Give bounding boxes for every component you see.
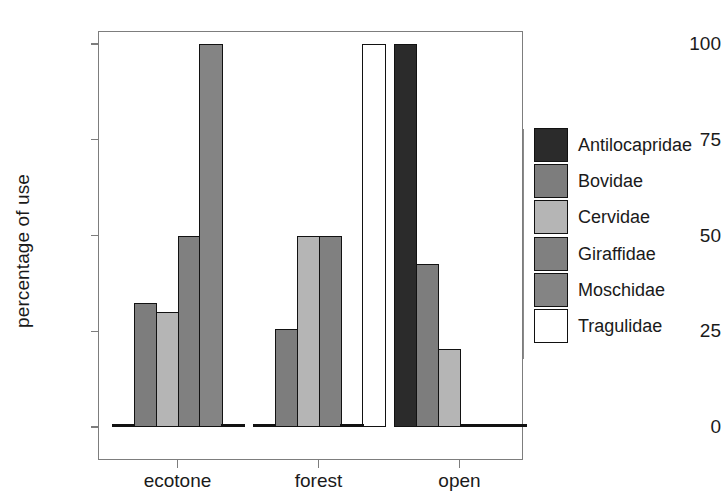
y-tick-mark — [91, 139, 98, 140]
legend-swatch-antilocapridae — [534, 128, 568, 162]
legend-label: Giraffidae — [578, 245, 656, 263]
bar-ecotone-antilocapridae — [112, 424, 135, 427]
y-axis-title: percentage of use — [0, 0, 46, 502]
legend-item-giraffidae[interactable]: Giraffidae — [534, 236, 720, 272]
legend-swatch-moschidae — [534, 273, 568, 307]
legend-swatch-bovidae — [534, 164, 568, 198]
bar-ecotone-bovidae — [134, 303, 157, 427]
bar-ecotone-cervidae — [156, 312, 179, 427]
y-tick-mark — [91, 43, 98, 44]
legend: AntilocapridaeBovidaeCervidaeGiraffidaeM… — [523, 127, 721, 359]
bar-group-open — [394, 44, 525, 427]
bar-forest-cervidae — [297, 236, 320, 428]
x-tick-label-ecotone: ecotone — [144, 470, 212, 492]
y-tick-label: 100 — [637, 33, 721, 55]
y-tick-mark — [91, 331, 98, 332]
bar-forest-antilocapridae — [253, 424, 276, 427]
bar-forest-moschidae — [340, 424, 363, 427]
x-tick-mark — [459, 460, 460, 468]
bar-ecotone-moschidae — [199, 44, 222, 427]
bar-open-tragulidae — [503, 424, 526, 427]
legend-item-moschidae[interactable]: Moschidae — [534, 272, 720, 308]
legend-label: Antilocapridae — [578, 136, 692, 154]
legend-label: Cervidae — [578, 208, 650, 226]
legend-label: Tragulidae — [578, 317, 662, 335]
x-tick-label-open: open — [438, 470, 480, 492]
bar-open-giraffidae — [460, 424, 483, 427]
bar-open-bovidae — [416, 264, 439, 427]
legend-swatch-giraffidae — [534, 237, 568, 271]
bar-open-cervidae — [438, 349, 461, 428]
legend-swatch-tragulidae — [534, 309, 568, 343]
bar-ecotone-tragulidae — [221, 424, 244, 427]
legend-item-antilocapridae[interactable]: Antilocapridae — [534, 127, 720, 163]
bar-forest-giraffidae — [319, 236, 342, 428]
x-tick-mark — [177, 460, 178, 468]
legend-label: Moschidae — [578, 281, 665, 299]
y-tick-mark — [91, 426, 98, 427]
y-tick-mark — [91, 235, 98, 236]
legend-item-cervidae[interactable]: Cervidae — [534, 199, 720, 235]
x-tick-label-forest: forest — [295, 470, 343, 492]
y-tick-label: 0 — [637, 416, 721, 438]
bars-layer — [98, 31, 523, 460]
bar-forest-tragulidae — [362, 44, 385, 427]
bar-group-forest — [253, 44, 384, 427]
legend-item-bovidae[interactable]: Bovidae — [534, 163, 720, 199]
legend-item-tragulidae[interactable]: Tragulidae — [534, 308, 720, 344]
bar-forest-bovidae — [275, 329, 298, 427]
bar-group-ecotone — [112, 44, 243, 427]
x-tick-mark — [318, 460, 319, 468]
bar-open-antilocapridae — [394, 44, 417, 427]
bar-open-moschidae — [481, 424, 504, 427]
bar-ecotone-giraffidae — [178, 236, 201, 428]
legend-swatch-cervidae — [534, 200, 568, 234]
legend-label: Bovidae — [578, 172, 643, 190]
legend-divider — [523, 129, 524, 359]
